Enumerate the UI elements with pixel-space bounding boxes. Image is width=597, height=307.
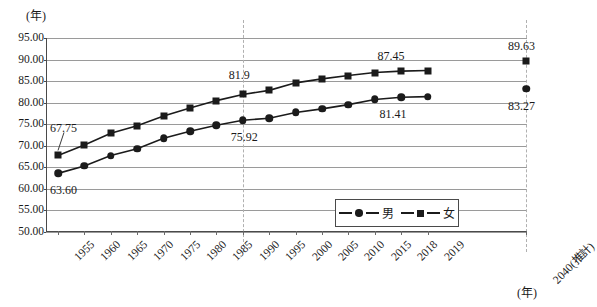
- legend-line-male: [339, 212, 352, 214]
- x-tick-label: 2015: [389, 238, 414, 263]
- x-tick-label: 2040(推計): [548, 238, 597, 287]
- legend-line-female: [401, 212, 414, 214]
- x-tick-label: 1970: [151, 238, 176, 263]
- x-tick-label: 2018: [415, 238, 440, 263]
- legend-line-female-2: [427, 212, 440, 214]
- x-tick-label: 1975: [177, 238, 202, 263]
- x-tick-label: 1955: [72, 238, 97, 263]
- x-tick-label: 1995: [283, 238, 308, 263]
- legend-line-male-2: [366, 212, 379, 214]
- legend-item-female: 女: [401, 204, 455, 222]
- x-tick-label: 1990: [257, 238, 282, 263]
- x-tick-label: 2010: [362, 238, 387, 263]
- legend-item-male: 男: [339, 204, 394, 222]
- legend-square-icon: [417, 210, 424, 217]
- x-tick-label: 2019: [441, 238, 466, 263]
- legend-label-female: 女: [443, 204, 455, 222]
- chart-legend: 男 女: [335, 199, 459, 227]
- x-tick-label: 2005: [336, 238, 361, 263]
- legend-circle-icon: [355, 209, 363, 217]
- legend-label-male: 男: [382, 204, 394, 222]
- x-tick-label: 1980: [204, 238, 229, 263]
- x-tick-label: 1985: [230, 238, 255, 263]
- x-tick-label: 1960: [98, 238, 123, 263]
- x-tick-label: 1965: [125, 238, 150, 263]
- x-tick-label: 2000: [309, 238, 334, 263]
